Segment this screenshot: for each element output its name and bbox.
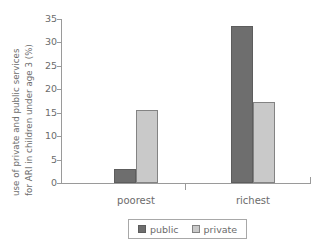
bar-richest-public [231,26,253,183]
y-axis-tick-mark [57,183,62,184]
y-axis-tick-mark [57,113,62,114]
legend-swatch-public [138,225,146,233]
x-axis-right-cap [310,177,311,184]
y-axis-tick-label: 20 [45,83,57,94]
bar-poorest-public [114,169,136,183]
chart-legend: publicprivate [128,219,247,239]
y-axis-tick-label: 0 [51,177,57,188]
y-axis-tick-mark [57,136,62,137]
x-axis-label-richest: richest [213,195,293,206]
x-axis-label-poorest: poorest [96,195,176,206]
y-axis-tick-label: 10 [45,130,57,141]
y-axis-tick-label: 15 [45,107,57,118]
y-axis-tick-label: 30 [45,36,57,47]
y-axis-tick-mark [57,66,62,67]
y-axis-tick-label: 25 [45,60,57,71]
legend-swatch-private [192,225,200,233]
bar-richest-private [253,102,275,183]
y-axis-tick-mark [57,160,62,161]
legend-label-public: public [150,224,179,235]
y-axis-tick-mark [57,89,62,90]
legend-label-private: private [204,224,238,235]
x-axis-line [61,183,311,184]
plot-area: 05101520253035 poorestrichest [61,19,311,184]
y-axis-tick-mark [57,19,62,20]
y-axis-tick-mark [57,42,62,43]
x-axis-mid-tick [185,184,186,190]
y-axis-title: use of private and public services for A… [0,0,34,200]
legend-entry-public[interactable]: public [138,224,179,235]
y-axis-title-line-2: for ARI in children under age 3 (%) [24,44,34,196]
y-axis-tick-label: 5 [51,154,57,165]
legend-entry-private[interactable]: private [192,224,238,235]
y-axis-title-line-1: use of private and public services [11,48,21,196]
bar-poorest-private [136,110,158,183]
y-axis-tick-label: 35 [45,13,57,24]
